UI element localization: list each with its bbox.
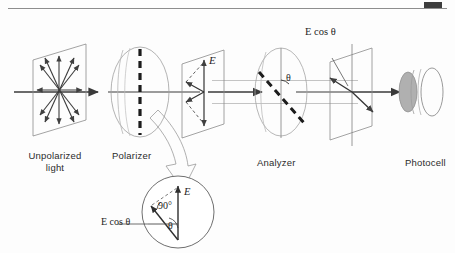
inset-e-text: E [184, 186, 190, 197]
label-unpolarized-light: Unpolarized light [14, 150, 96, 173]
polarized-plate [182, 50, 224, 138]
polarization-diagram: Unpolarized light Polarizer Analyzer Pho… [0, 0, 455, 253]
inset-label-e-cos-theta: E cos θ [101, 216, 130, 227]
label-photocell: Photocell [405, 157, 446, 168]
page-rule [8, 2, 447, 9]
e-vector-text: E [209, 54, 216, 66]
unpolarized-line2: light [14, 162, 96, 174]
inset-circle [118, 176, 214, 248]
label-e-cos-theta: E cos θ [305, 26, 336, 37]
label-polarizer: Polarizer [112, 150, 151, 161]
analyzer-disc [255, 48, 307, 138]
photocell-body [399, 68, 443, 116]
analyzer-plate [330, 44, 373, 146]
label-e-vector: E [209, 54, 216, 66]
inset-label-right-angle: 90° [158, 200, 172, 211]
unpolarized-plate [33, 44, 86, 136]
label-theta-analyzer: θ [286, 72, 291, 83]
label-analyzer: Analyzer [257, 157, 296, 168]
unpolarized-line1: Unpolarized [14, 150, 96, 162]
inset-label-theta: θ [168, 220, 173, 231]
inset-label-e: E [184, 186, 190, 197]
diagram-canvas [0, 0, 455, 253]
